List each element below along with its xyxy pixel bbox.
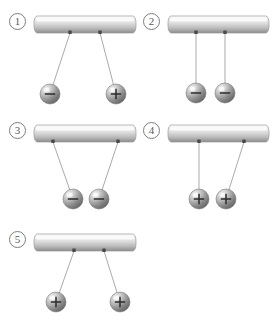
sphere-specular-highlight: [220, 193, 226, 197]
sphere-specular-highlight: [67, 193, 73, 197]
ceiling-bar-highlight: [170, 127, 267, 130]
sphere-specular-highlight: [193, 193, 199, 197]
ceiling-bar-highlight: [36, 18, 134, 21]
charged-sphere: +: [106, 84, 126, 104]
pendulum-diagram-canvas: −+−−−−++++: [0, 0, 277, 326]
charged-sphere: −: [89, 189, 109, 209]
panel-number-four: 4: [143, 122, 160, 139]
ceiling-bar-highlight: [36, 236, 134, 239]
sphere-specular-highlight: [50, 296, 56, 300]
string-anchor-point: [72, 249, 75, 252]
pendulum-string: [100, 33, 114, 86]
string-anchor-point: [242, 140, 245, 143]
panel-5: ++: [34, 234, 136, 312]
charged-sphere: +: [189, 189, 209, 209]
pendulum-string: [104, 251, 117, 294]
string-anchor-point: [223, 31, 226, 34]
charged-sphere: −: [40, 84, 60, 104]
sphere-specular-highlight: [44, 88, 50, 92]
sphere-specular-highlight: [110, 88, 116, 92]
figure-root: −+−−−−++++ 12345: [0, 0, 277, 326]
panel-number-one: 1: [9, 13, 26, 30]
panel-2: −−: [168, 16, 269, 103]
string-anchor-point: [102, 249, 105, 252]
charged-sphere: −: [215, 83, 235, 103]
panel-number-five: 5: [9, 231, 26, 248]
string-anchor-point: [116, 140, 119, 143]
string-anchor-point: [98, 31, 101, 34]
panel-3: −−: [34, 125, 136, 209]
panel-1: −+: [34, 16, 136, 104]
sphere-specular-highlight: [219, 87, 225, 91]
pendulum-string: [229, 142, 244, 191]
panel-number-two: 2: [143, 13, 160, 30]
ceiling-bar-highlight: [170, 18, 267, 21]
charged-sphere: −: [186, 83, 206, 103]
charged-sphere: +: [46, 292, 66, 312]
charged-sphere: +: [110, 292, 130, 312]
charged-sphere: −: [63, 189, 83, 209]
panels-layer: −+−−−−++++: [34, 16, 269, 312]
string-anchor-point: [194, 31, 197, 34]
sphere-specular-highlight: [93, 193, 99, 197]
pendulum-string: [53, 142, 70, 191]
string-anchor-point: [197, 140, 200, 143]
panel-number-three: 3: [9, 122, 26, 139]
sphere-specular-highlight: [114, 296, 120, 300]
pendulum-string: [102, 142, 118, 191]
ceiling-bar-highlight: [36, 127, 134, 130]
charged-sphere: +: [216, 189, 236, 209]
panel-4: ++: [168, 125, 269, 209]
pendulum-string: [59, 251, 74, 294]
string-anchor-point: [51, 140, 54, 143]
sphere-specular-highlight: [190, 87, 196, 91]
string-anchor-point: [68, 31, 71, 34]
pendulum-string: [53, 33, 70, 86]
